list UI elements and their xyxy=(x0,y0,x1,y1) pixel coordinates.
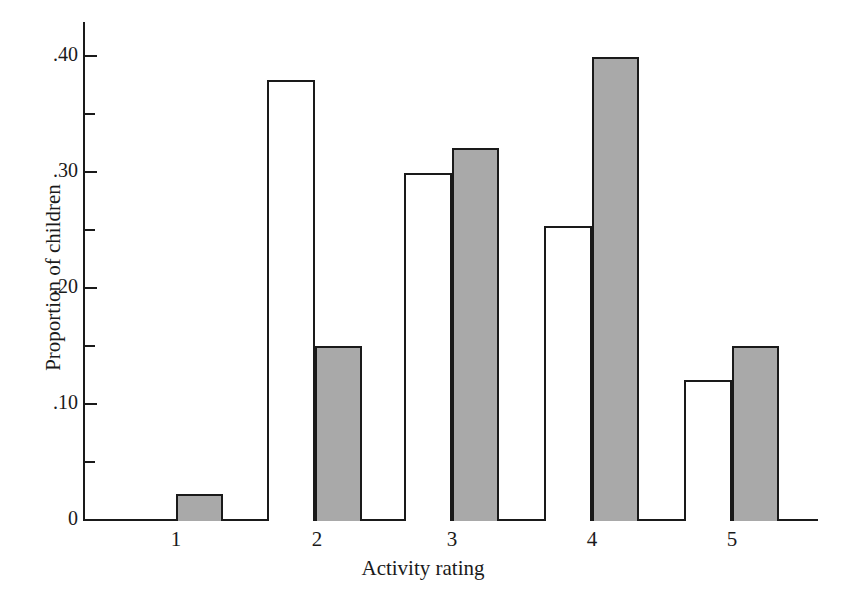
y-axis-title: Proportion of children xyxy=(41,128,66,428)
x-tick-label-4: 4 xyxy=(572,527,612,552)
y-tick-minor xyxy=(85,461,95,463)
bar-5-shaded xyxy=(732,346,779,521)
y-tick-minor xyxy=(85,229,95,231)
bar-chart-figure: .40.30.20.100 12345 Proportion of childr… xyxy=(0,0,846,597)
y-tick-label: .40 xyxy=(53,44,85,64)
bar-5-open xyxy=(684,380,732,521)
bar-3-open xyxy=(404,173,452,521)
y-tick-major xyxy=(85,171,97,173)
y-tick-major xyxy=(85,287,97,289)
x-tick-label-3: 3 xyxy=(432,527,472,552)
bar-3-shaded xyxy=(452,148,499,521)
bar-2-shaded xyxy=(315,346,362,521)
y-tick-minor xyxy=(85,345,95,347)
y-tick-major xyxy=(85,519,97,521)
bar-1-shaded xyxy=(176,494,223,521)
x-axis-title: Activity rating xyxy=(0,556,846,581)
y-tick-major xyxy=(85,403,97,405)
bar-4-open xyxy=(544,226,592,521)
x-tick-label-1: 1 xyxy=(156,527,196,552)
y-tick-major xyxy=(85,55,97,57)
bar-2-open xyxy=(267,80,315,521)
x-tick-label-2: 2 xyxy=(297,527,337,552)
bar-4-shaded xyxy=(592,57,639,521)
y-axis-line xyxy=(83,22,85,521)
y-tick-label: 0 xyxy=(68,508,85,528)
y-tick-minor xyxy=(85,113,95,115)
x-tick-label-5: 5 xyxy=(712,527,752,552)
